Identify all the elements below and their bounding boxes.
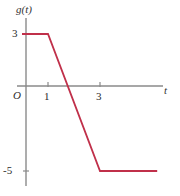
y-tick-label-3: 3 (12, 28, 18, 39)
x-tick-label-1: 1 (44, 91, 50, 102)
origin-label: O (13, 90, 21, 101)
curve-g-of-t (22, 34, 157, 171)
y-tick-label-negative-5: -5 (3, 165, 12, 176)
x-axis-title: t (164, 85, 167, 96)
x-tick-label-3: 3 (96, 91, 102, 102)
graph-figure: g(t) t O 3 -5 1 3 (0, 0, 180, 196)
plot-canvas (0, 0, 180, 196)
y-axis-title: g(t) (16, 4, 32, 15)
